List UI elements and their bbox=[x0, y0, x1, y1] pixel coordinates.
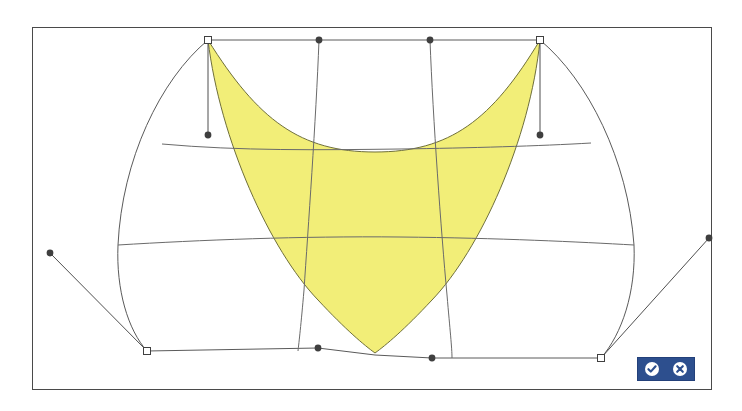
accept-button[interactable] bbox=[643, 360, 661, 378]
cancel-button[interactable] bbox=[671, 360, 689, 378]
check-circle-icon bbox=[644, 361, 660, 377]
editor-stage bbox=[0, 0, 742, 411]
close-circle-icon bbox=[672, 361, 688, 377]
confirm-cancel-toolbar bbox=[637, 357, 695, 381]
drawing-canvas-frame[interactable] bbox=[32, 27, 712, 390]
